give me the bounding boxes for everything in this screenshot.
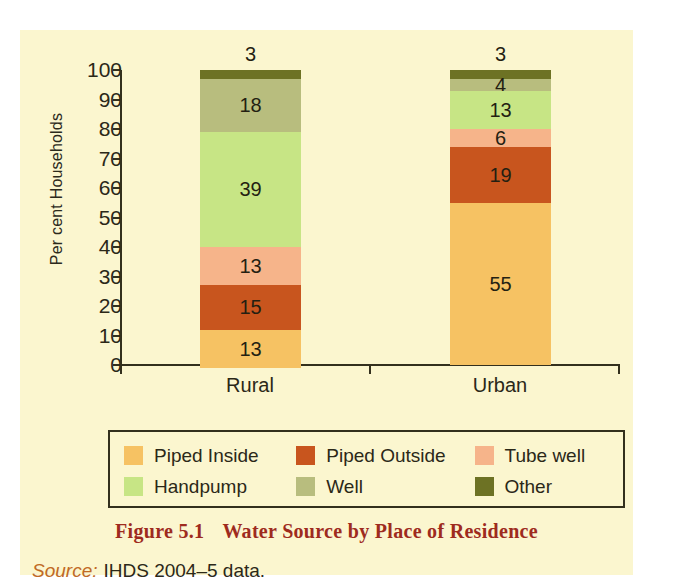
y-tick-label-70: 70 bbox=[66, 148, 122, 169]
legend-label: Piped Inside bbox=[154, 446, 259, 465]
y-axis-ticks: 1009080706050403020100 bbox=[20, 30, 122, 390]
y-tick-label-10: 10 bbox=[66, 325, 122, 346]
figure-page: Per cent Households 10090807060504030201… bbox=[0, 0, 675, 581]
bar-segment-value: 13 bbox=[239, 339, 261, 359]
bar-segment-value: 18 bbox=[239, 95, 261, 115]
figure-caption: Figure 5.1Water Source by Place of Resid… bbox=[20, 520, 633, 543]
bar-segment-value: 6 bbox=[495, 128, 506, 148]
source-text: IHDS 2004–5 data. bbox=[103, 560, 265, 581]
bar-segment-rural-other[interactable]: 3 bbox=[200, 70, 301, 79]
y-tick-label-90: 90 bbox=[66, 89, 122, 110]
y-tick-label-30: 30 bbox=[66, 266, 122, 287]
bar-segment-rural-handpump[interactable]: 39 bbox=[200, 132, 301, 247]
x-tick-end bbox=[618, 366, 620, 374]
legend-row: HandpumpWellOther bbox=[124, 471, 623, 502]
bar-segment-urban-tube-well[interactable]: 6 bbox=[450, 129, 551, 147]
legend-label: Handpump bbox=[154, 477, 247, 496]
legend-swatch-icon bbox=[124, 446, 143, 465]
bar-segment-rural-piped-inside[interactable]: 13 bbox=[200, 330, 301, 368]
figure-title: Water Source by Place of Residence bbox=[222, 520, 538, 542]
bar-segment-urban-handpump[interactable]: 13 bbox=[450, 91, 551, 129]
y-tick-label-40: 40 bbox=[66, 236, 122, 257]
legend-item-tube-well[interactable]: Tube well bbox=[475, 446, 624, 465]
x-tick-middle bbox=[369, 366, 371, 374]
bar-segment-value: 13 bbox=[489, 100, 511, 120]
y-tick-label-100: 100 bbox=[66, 59, 122, 80]
figure-panel: Per cent Households 10090807060504030201… bbox=[20, 30, 633, 575]
chart-legend: Piped InsidePiped OutsideTube wellHandpu… bbox=[108, 430, 625, 508]
bar-segment-urban-other[interactable]: 3 bbox=[450, 70, 551, 79]
legend-label: Well bbox=[326, 477, 363, 496]
legend-item-piped-inside[interactable]: Piped Inside bbox=[124, 446, 296, 465]
legend-swatch-icon bbox=[475, 446, 494, 465]
legend-label: Tube well bbox=[505, 446, 586, 465]
x-axis-label-rural: Rural bbox=[170, 374, 330, 397]
legend-item-well[interactable]: Well bbox=[296, 477, 474, 496]
bar-segment-value: 55 bbox=[489, 274, 511, 294]
bar-segment-urban-well[interactable]: 4 bbox=[450, 79, 551, 91]
y-axis-line bbox=[120, 70, 122, 365]
y-tick-label-20: 20 bbox=[66, 295, 122, 316]
legend-label: Other bbox=[505, 477, 553, 496]
bar-segment-value: 3 bbox=[450, 44, 551, 64]
x-tick-start bbox=[120, 366, 122, 374]
bar-segment-rural-tube-well[interactable]: 13 bbox=[200, 247, 301, 285]
legend-swatch-icon bbox=[296, 446, 315, 465]
bar-segment-value: 15 bbox=[239, 297, 261, 317]
bar-segment-rural-piped-outside[interactable]: 15 bbox=[200, 285, 301, 329]
y-tick-label-60: 60 bbox=[66, 177, 122, 198]
y-tick-label-80: 80 bbox=[66, 118, 122, 139]
y-tick-label-50: 50 bbox=[66, 207, 122, 228]
bar-segment-urban-piped-outside[interactable]: 19 bbox=[450, 147, 551, 203]
legend-item-handpump[interactable]: Handpump bbox=[124, 477, 296, 496]
chart-plot-area: Per cent Households 10090807060504030201… bbox=[20, 30, 633, 390]
legend-label: Piped Outside bbox=[326, 446, 445, 465]
figure-number: Figure 5.1 bbox=[115, 520, 204, 542]
y-tick-label-0: 0 bbox=[66, 354, 122, 375]
x-axis-label-urban: Urban bbox=[420, 374, 580, 397]
bar-segment-value: 13 bbox=[239, 256, 261, 276]
bar-segment-rural-well[interactable]: 18 bbox=[200, 79, 301, 132]
legend-item-other[interactable]: Other bbox=[475, 477, 624, 496]
bar-segment-value: 19 bbox=[489, 165, 511, 185]
legend-swatch-icon bbox=[475, 477, 494, 496]
bar-urban[interactable]: 341361955 bbox=[450, 70, 551, 365]
legend-swatch-icon bbox=[296, 477, 315, 496]
source-note: Source:IHDS 2004–5 data. bbox=[32, 560, 265, 581]
bar-segment-value: 3 bbox=[200, 44, 301, 64]
bar-segment-value: 39 bbox=[239, 179, 261, 199]
legend-row: Piped InsidePiped OutsideTube well bbox=[124, 440, 623, 471]
source-label: Source: bbox=[32, 560, 97, 581]
bar-rural[interactable]: 31839131513 bbox=[200, 70, 301, 365]
legend-swatch-icon bbox=[124, 477, 143, 496]
bar-segment-urban-piped-inside[interactable]: 55 bbox=[450, 203, 551, 365]
legend-item-piped-outside[interactable]: Piped Outside bbox=[296, 446, 474, 465]
